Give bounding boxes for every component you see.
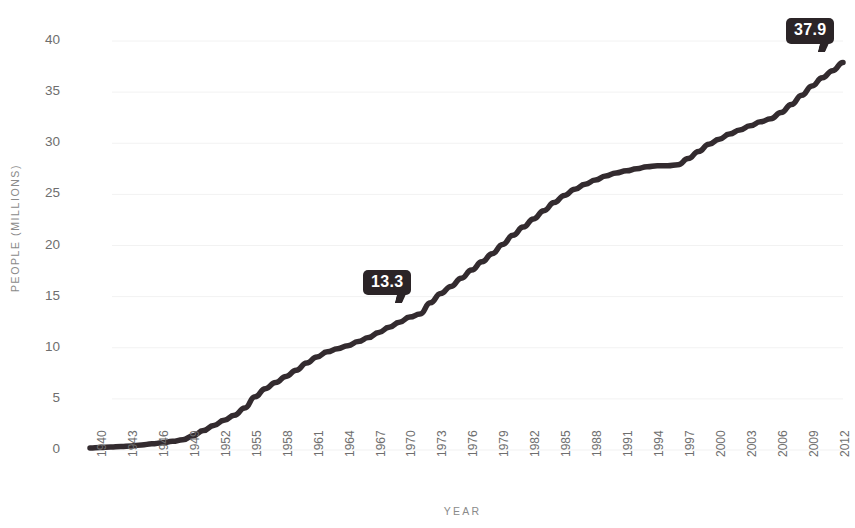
x-tick-label-1997: 1997: [683, 430, 697, 457]
x-tick-label-2000: 2000: [714, 430, 728, 457]
y-tick-label-10: 10: [14, 339, 60, 354]
x-tick-label-1940: 1940: [95, 430, 109, 457]
data-series-line: [90, 62, 843, 447]
line-chart: PEOPLE (MILLIONS) YEAR 0510152025303540 …: [0, 0, 855, 528]
x-tick-label-1943: 1943: [126, 430, 140, 457]
x-tick-label-2009: 2009: [807, 430, 821, 457]
x-tick-label-1949: 1949: [188, 430, 202, 457]
x-tick-label-1979: 1979: [497, 430, 511, 457]
x-tick-label-1955: 1955: [250, 430, 264, 457]
data-label-37-9: 37.9: [786, 18, 834, 43]
x-tick-label-1976: 1976: [466, 430, 480, 457]
gridlines: [112, 41, 843, 450]
y-tick-label-40: 40: [14, 32, 60, 47]
y-tick-label-15: 15: [14, 288, 60, 303]
y-tick-label-25: 25: [14, 185, 60, 200]
y-tick-label-35: 35: [14, 83, 60, 98]
y-tick-label-5: 5: [14, 390, 60, 405]
x-tick-label-1982: 1982: [528, 430, 542, 457]
data-label-13-3: 13.3: [363, 270, 411, 295]
x-axis-title: YEAR: [0, 505, 855, 517]
x-tick-label-1973: 1973: [435, 430, 449, 457]
x-tick-label-1988: 1988: [590, 430, 604, 457]
x-tick-label-1985: 1985: [559, 430, 573, 457]
x-tick-label-2012: 2012: [838, 430, 852, 457]
y-tick-label-20: 20: [14, 237, 60, 252]
x-tick-label-1991: 1991: [621, 430, 635, 457]
x-tick-label-1970: 1970: [404, 430, 418, 457]
x-tick-label-1952: 1952: [219, 430, 233, 457]
x-tick-label-1961: 1961: [312, 430, 326, 457]
x-tick-label-2003: 2003: [745, 430, 759, 457]
y-tick-label-0: 0: [14, 441, 60, 456]
x-tick-label-1967: 1967: [374, 430, 388, 457]
series-path-people-millions: [90, 62, 843, 447]
x-tick-label-1958: 1958: [281, 430, 295, 457]
x-tick-label-1964: 1964: [343, 430, 357, 457]
x-tick-label-1946: 1946: [157, 430, 171, 457]
y-tick-label-30: 30: [14, 134, 60, 149]
x-tick-label-1994: 1994: [652, 430, 666, 457]
x-tick-label-2006: 2006: [776, 430, 790, 457]
